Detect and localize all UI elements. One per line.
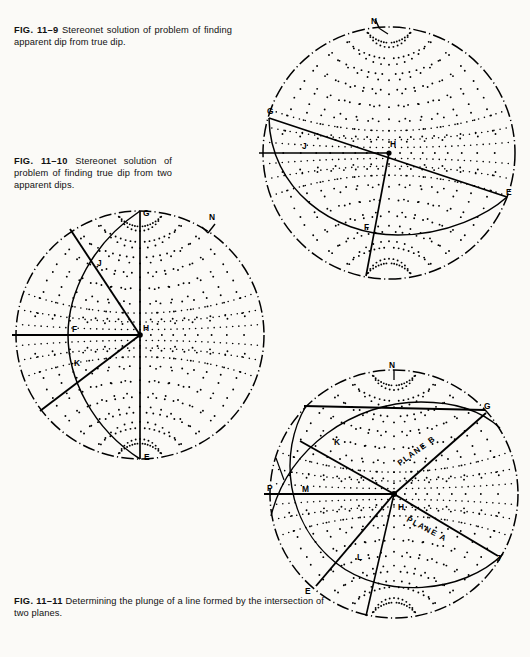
label-E: E	[144, 452, 150, 462]
label-H: H	[143, 323, 149, 333]
line-H-F-plunge	[366, 153, 389, 276]
great-circle-true-dip	[269, 118, 507, 235]
label-E: E	[305, 586, 311, 596]
label-H: H	[390, 139, 396, 149]
label-M: M	[302, 484, 309, 494]
label-plane-b: PLANE B	[396, 434, 438, 468]
label-N: N	[209, 212, 215, 222]
figure-stereonet-true-dip: G N J F H K E	[12, 198, 268, 464]
caption-fig-11-10: FIG. 11–10 Stereonet solution of problem…	[14, 155, 172, 192]
label-K: K	[334, 437, 340, 447]
label-P: P	[267, 483, 273, 493]
figure-number-11-9: FIG. 11–9	[14, 25, 58, 35]
figure-number-11-10: FIG. 11–10	[14, 156, 68, 166]
caption-fig-11-9: FIG. 11–9 Stereonet solution of problem …	[14, 24, 232, 48]
label-L: L	[357, 552, 362, 562]
label-G: G	[267, 106, 274, 116]
label-J: J	[496, 553, 501, 563]
great-circle-plane-b	[271, 402, 500, 516]
tick-left-rim	[276, 458, 284, 480]
figure-stereonet-apparent-dip: G J H E F N	[258, 14, 520, 286]
label-K: K	[74, 358, 80, 368]
figure-number-11-11: FIG. 11–11	[14, 596, 63, 606]
figure-stereonet-plane-intersection: N G K P M H L E J PLANE B PLANE A	[258, 358, 526, 620]
great-circle-plane-a	[290, 406, 503, 588]
label-J: J	[97, 258, 102, 268]
center-point-H	[391, 491, 397, 497]
label-F: F	[72, 324, 77, 334]
label-J: J	[302, 141, 307, 151]
north-tick	[208, 224, 215, 233]
label-F: F	[364, 222, 369, 232]
line-H-J-apparent-dip-1	[70, 229, 140, 335]
label-G: G	[143, 208, 150, 218]
figure-page: FIG. 11–9 Stereonet solution of problem …	[0, 0, 530, 657]
label-G: G	[484, 401, 491, 411]
label-N: N	[389, 360, 395, 370]
center-point-H	[137, 332, 143, 338]
label-N: N	[371, 16, 377, 26]
north-tick-serif	[380, 29, 389, 34]
label-H: H	[398, 502, 404, 512]
line-H-L-E-plunge	[316, 494, 394, 586]
center-point-H	[386, 150, 391, 155]
label-E: E	[506, 187, 512, 197]
line-H-K-apparent-dip-2	[40, 335, 140, 411]
